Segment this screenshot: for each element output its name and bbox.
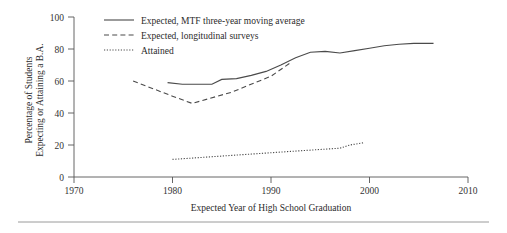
y-axis-label-line2: Expecting or Attaining a B.A. [35, 43, 45, 156]
y-tick-label-80: 80 [55, 45, 65, 55]
y-tick-label-100: 100 [50, 13, 65, 23]
series-line-expected-longitudinal [133, 63, 291, 104]
legend: Expected, MTF three-year moving average … [104, 16, 305, 56]
legend-label-attained: Attained [141, 46, 174, 56]
y-tick-label-20: 20 [55, 141, 65, 151]
y-tick-label-0: 0 [59, 173, 64, 183]
series-group [133, 43, 433, 159]
y-axis-ticks: 100 80 60 40 20 0 [50, 13, 74, 183]
x-tick-label-1970: 1970 [65, 186, 84, 196]
y-tick-label-60: 60 [55, 77, 65, 87]
line-chart: Percentage of Students Expecting or Atta… [0, 0, 507, 233]
y-tick-label-40: 40 [55, 109, 65, 119]
figure-container: Percentage of Students Expecting or Atta… [0, 0, 507, 233]
x-axis-label: Expected Year of High School Graduation [191, 203, 352, 213]
x-axis-ticks: 1970 1980 1990 2000 2010 [65, 177, 478, 196]
legend-label-expected-mtf: Expected, MTF three-year moving average [141, 16, 305, 26]
legend-label-expected-longitudinal: Expected, longitudinal surveys [141, 31, 259, 41]
y-axis-label: Percentage of Students Expecting or Atta… [24, 43, 45, 156]
x-tick-label-2010: 2010 [459, 186, 478, 196]
series-line-attained [173, 143, 365, 160]
x-tick-label-2000: 2000 [360, 186, 379, 196]
series-line-expected-mtf [168, 43, 434, 84]
y-axis-label-line1: Percentage of Students [24, 56, 34, 143]
x-tick-label-1980: 1980 [163, 186, 182, 196]
x-tick-label-1990: 1990 [262, 186, 281, 196]
